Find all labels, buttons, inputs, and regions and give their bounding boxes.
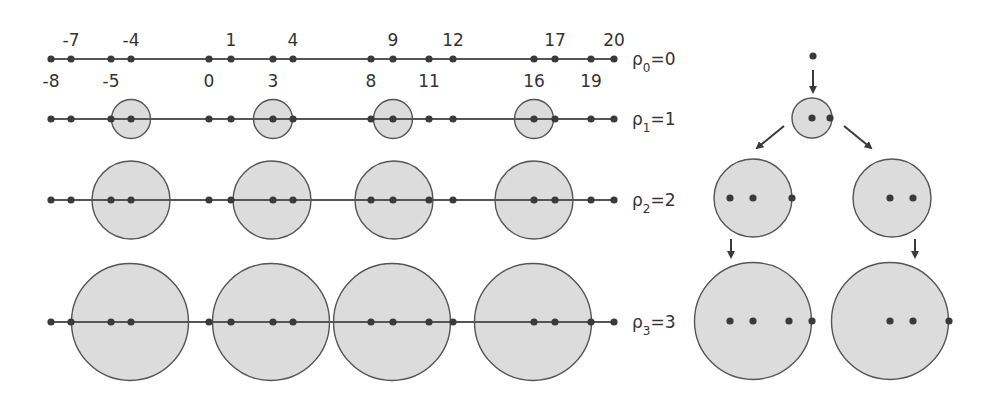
tick-label: 19 [580,71,602,91]
lattice-point [389,318,396,325]
lattice-point [47,115,54,122]
cluster-point [909,194,916,201]
cluster-point [788,194,795,201]
tick-label: 17 [544,30,566,50]
lattice-point [269,115,276,122]
lattice-point [47,55,54,62]
lattice-point [449,115,456,122]
lattice-point [530,55,537,62]
row-rho-1: ρ1=1 [47,100,675,139]
tick-label: 12 [442,30,464,50]
tick-label: 11 [418,71,440,91]
tick-label: -5 [103,71,120,91]
lattice-point [107,55,114,62]
cluster-point [726,317,733,324]
lattice-point [449,196,456,203]
lattice-point [107,196,114,203]
cluster-point [886,194,893,201]
rho-label: ρ0=0 [632,49,676,75]
lattice-point [47,318,54,325]
lattice-point [289,55,296,62]
tick-label: -4 [123,30,140,50]
tick-label: 8 [366,71,377,91]
tick-label: 0 [204,71,215,91]
lattice-point [127,196,134,203]
lattice-point [425,196,432,203]
tick-label: 3 [268,71,279,91]
lattice-point [587,115,594,122]
lattice-point [425,318,432,325]
lattice-point [367,196,374,203]
tree-level-2-node-0 [714,159,796,237]
lattice-point [127,318,134,325]
rho-label: ρ1=1 [632,109,676,135]
lattice-point [551,318,558,325]
lattice-point [367,318,374,325]
row-rho-2: ρ2=2 [47,161,675,239]
lattice-point [449,55,456,62]
root-point [809,52,816,59]
cluster-point [808,317,815,324]
cluster-point [726,194,733,201]
lattice-point [587,55,594,62]
row-rho-3: ρ3=3 [47,264,675,381]
cluster-point [808,114,815,121]
lattice-point [289,196,296,203]
lattice-point [289,115,296,122]
lattice-point [610,196,617,203]
lattice-point [389,115,396,122]
arrow-icon [757,126,784,148]
cluster-point [749,317,756,324]
lattice-point [610,55,617,62]
lattice-point [425,115,432,122]
number-line-rows: ρ0=0ρ1=1ρ2=2ρ3=3 [47,49,675,381]
tree-level-1 [792,98,834,138]
tick-label: 9 [388,30,399,50]
tree-level-3-node-1 [832,263,953,380]
lattice-point [47,196,54,203]
lattice-point [205,318,212,325]
lattice-point [551,196,558,203]
tick-label: -7 [63,30,80,50]
lattice-point [587,196,594,203]
cluster-tree [695,52,953,379]
lattice-point [227,318,234,325]
lattice-point [367,55,374,62]
lattice-point [551,115,558,122]
lattice-point [449,318,456,325]
lattice-point [269,55,276,62]
arrow-icon [844,126,871,148]
lattice-point [127,115,134,122]
lattice-point [107,115,114,122]
lattice-point [227,55,234,62]
lattice-point [205,115,212,122]
tick-label: 1 [226,30,237,50]
lattice-point [425,55,432,62]
lattice-point [67,55,74,62]
lattice-point [67,196,74,203]
lattice-point [587,318,594,325]
cluster-point [785,317,792,324]
lattice-point [389,55,396,62]
cluster-point [945,317,952,324]
tick-label: 4 [288,30,299,50]
lattice-point [610,115,617,122]
lattice-point [107,318,114,325]
tree-level-2-node-1 [853,159,931,237]
lattice-point [530,318,537,325]
lattice-point [67,115,74,122]
lattice-point [530,196,537,203]
cluster-point [909,317,916,324]
lattice-point [289,318,296,325]
lattice-point [227,115,234,122]
tree-level-3-node-0 [695,263,816,380]
lattice-point [551,55,558,62]
lattice-point [227,196,234,203]
tick-label: 20 [603,30,625,50]
lattice-diagram: ρ0=0ρ1=1ρ2=2ρ3=3 -7-4149121720-8-5038111… [0,0,995,396]
cluster-point [749,194,756,201]
lattice-point [67,318,74,325]
lattice-point [610,318,617,325]
lattice-point [269,318,276,325]
lattice-point [127,55,134,62]
